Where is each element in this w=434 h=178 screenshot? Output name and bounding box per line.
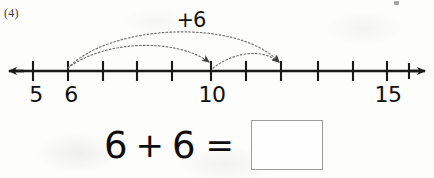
worksheet-page: (4) +6 bbox=[0, 0, 434, 178]
plus-operator-icon: + bbox=[136, 128, 164, 162]
jump-arcs-group bbox=[68, 32, 279, 68]
equation-row: 6 + 6 = bbox=[104, 118, 323, 172]
jump-arc-6-to-12 bbox=[68, 32, 279, 68]
equation-first-addend: 6 bbox=[104, 127, 127, 164]
equals-operator-icon: = bbox=[206, 128, 234, 162]
tick-label-10: 10 bbox=[199, 82, 226, 107]
tick-label-6: 6 bbox=[64, 82, 78, 107]
equation-second-addend: 6 bbox=[172, 127, 195, 164]
tick-label-15: 15 bbox=[375, 82, 402, 107]
tick-label-5: 5 bbox=[29, 82, 43, 107]
answer-input-box[interactable] bbox=[251, 120, 323, 170]
jump-arc-6-to-10 bbox=[68, 45, 209, 68]
